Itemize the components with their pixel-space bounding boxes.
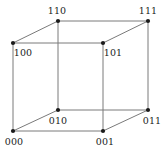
cube-vertex-000 [11, 129, 15, 133]
vertex-layer [11, 19, 150, 133]
vertex-label-011: 011 [143, 116, 162, 126]
vertex-label-000: 000 [5, 137, 24, 147]
cube-vertex-100 [11, 41, 15, 45]
cube-edge [103, 110, 148, 131]
vertex-label-010: 010 [49, 116, 68, 126]
cube-edge [13, 21, 58, 43]
vertex-label-111: 111 [139, 6, 158, 16]
cube-vertex-110 [56, 19, 60, 23]
vertex-label-101: 101 [104, 48, 123, 58]
cube-diagram: 110111100101010011000001 [0, 0, 168, 152]
cube-graphic [0, 0, 168, 152]
cube-edge [103, 21, 148, 43]
cube-vertex-111 [146, 19, 150, 23]
vertex-label-100: 100 [14, 48, 33, 58]
cube-vertex-001 [101, 129, 105, 133]
cube-vertex-010 [56, 108, 60, 112]
cube-vertex-101 [101, 41, 105, 45]
vertex-label-110: 110 [48, 6, 67, 16]
cube-vertex-011 [146, 108, 150, 112]
vertex-label-001: 001 [96, 137, 115, 147]
edge-layer [13, 21, 148, 131]
